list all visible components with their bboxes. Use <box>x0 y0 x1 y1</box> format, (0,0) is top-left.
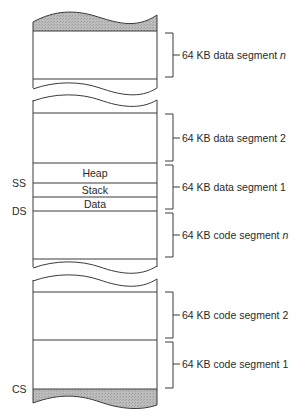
region-heap: Heap <box>33 167 157 179</box>
label-code-segment-1: 64 KB code segment 1 <box>182 358 288 370</box>
region-stack: Stack <box>33 184 157 196</box>
bracket-data-1 <box>165 165 180 209</box>
bracket-code-2 <box>165 292 180 338</box>
bottom-shaded-cap <box>33 389 157 409</box>
break-wave-lower-1 <box>33 262 157 273</box>
bracket-code-1 <box>165 342 180 388</box>
top-shaded-cap <box>33 12 157 31</box>
region-data: Data <box>33 198 157 210</box>
label-data-segment-1: 64 KB data segment 1 <box>182 181 286 193</box>
bracket-code-n <box>165 213 180 257</box>
label-data-segment-2: 64 KB data segment 2 <box>182 132 286 144</box>
break-wave-upper-2 <box>33 95 157 107</box>
label-code-segment-n: 64 KB code segment n <box>182 229 288 241</box>
break-wave-upper-1 <box>33 83 157 95</box>
break-wave-lower-2 <box>33 275 157 286</box>
register-ds: DS <box>12 205 27 217</box>
bracket-data-n <box>165 33 180 77</box>
register-ss: SS <box>12 177 26 189</box>
label-data-segment-n: 64 KB data segment n <box>182 49 286 61</box>
register-cs: CS <box>12 383 27 395</box>
label-code-segment-2: 64 KB code segment 2 <box>182 309 288 321</box>
bracket-data-2 <box>165 114 180 161</box>
